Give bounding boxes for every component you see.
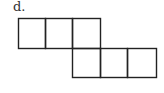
net-square bbox=[73, 49, 101, 78]
net-square bbox=[73, 19, 101, 49]
net-square bbox=[128, 49, 157, 78]
net-square bbox=[46, 19, 73, 49]
cube-net-diagram bbox=[0, 0, 164, 93]
net-square bbox=[19, 19, 46, 49]
net-square bbox=[101, 49, 128, 78]
